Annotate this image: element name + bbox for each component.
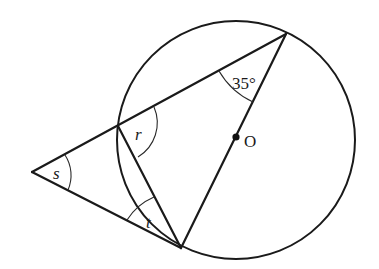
geometry-diagram: 35° r s t O [0,0,379,269]
angle-label-r: r [135,125,142,144]
angle-label-35: 35° [232,74,256,93]
angle-label-s: s [53,164,60,183]
center-point [232,133,239,140]
angle-arc-s [65,155,71,190]
secant-line [32,34,286,172]
center-label-o: O [244,132,256,151]
tangent-line [32,172,181,248]
diameter-cd [181,34,286,248]
